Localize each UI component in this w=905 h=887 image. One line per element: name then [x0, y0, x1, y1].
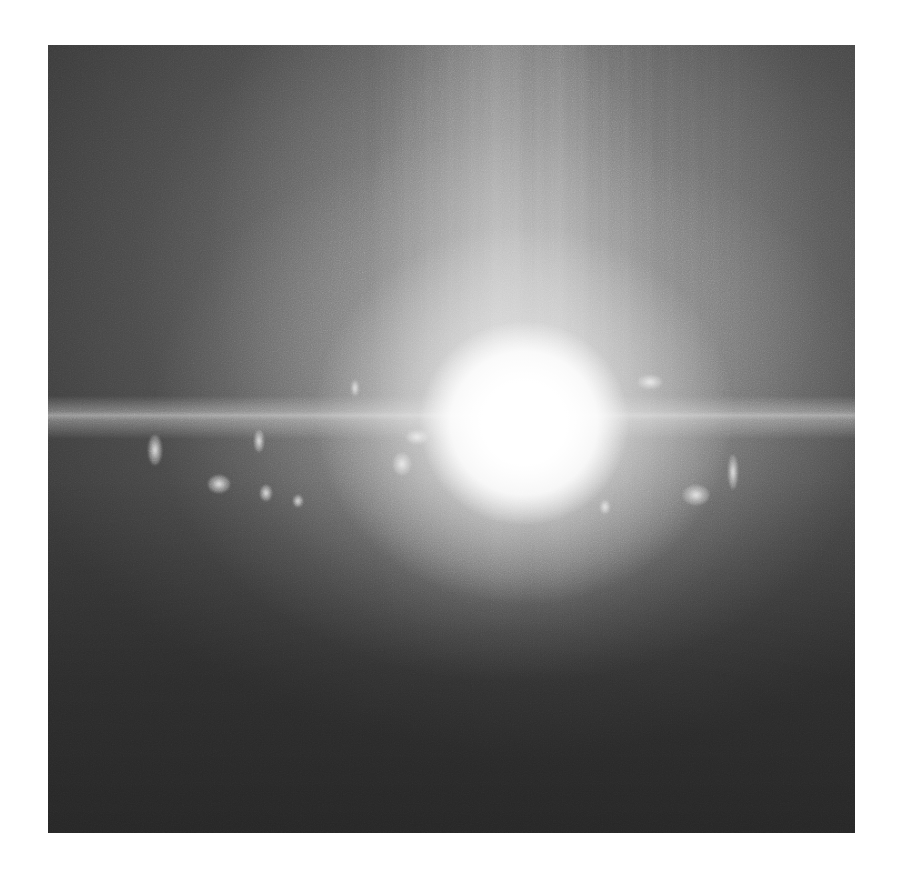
glowing-wisp: [393, 453, 411, 475]
glowing-wisp: [600, 500, 610, 514]
light-burst-photo: Grayscale photograph of an intense white…: [48, 45, 855, 833]
glowing-wisp: [148, 435, 162, 465]
glowing-wisp: [728, 455, 738, 489]
vertical-light-streaks: [48, 45, 855, 833]
central-light-burst: [48, 45, 855, 833]
glowing-wisp: [293, 495, 303, 507]
glowing-wisps: [48, 45, 855, 833]
glowing-wisp: [638, 375, 662, 389]
lower-shadow: [48, 45, 855, 833]
horizontal-flare-line: [48, 45, 855, 833]
glowing-wisp: [406, 430, 428, 444]
fine-light-streaks: [48, 45, 855, 833]
glowing-wisp: [208, 475, 230, 493]
upper-glow-cone: [48, 45, 855, 833]
glowing-wisp: [351, 380, 359, 396]
image-description: Grayscale photograph of an intense white…: [48, 45, 49, 46]
film-grain-texture: [48, 45, 855, 833]
glowing-wisp: [683, 485, 709, 505]
background-vignette: [48, 45, 855, 833]
glowing-wisp: [254, 430, 264, 452]
glowing-wisp: [260, 485, 272, 501]
